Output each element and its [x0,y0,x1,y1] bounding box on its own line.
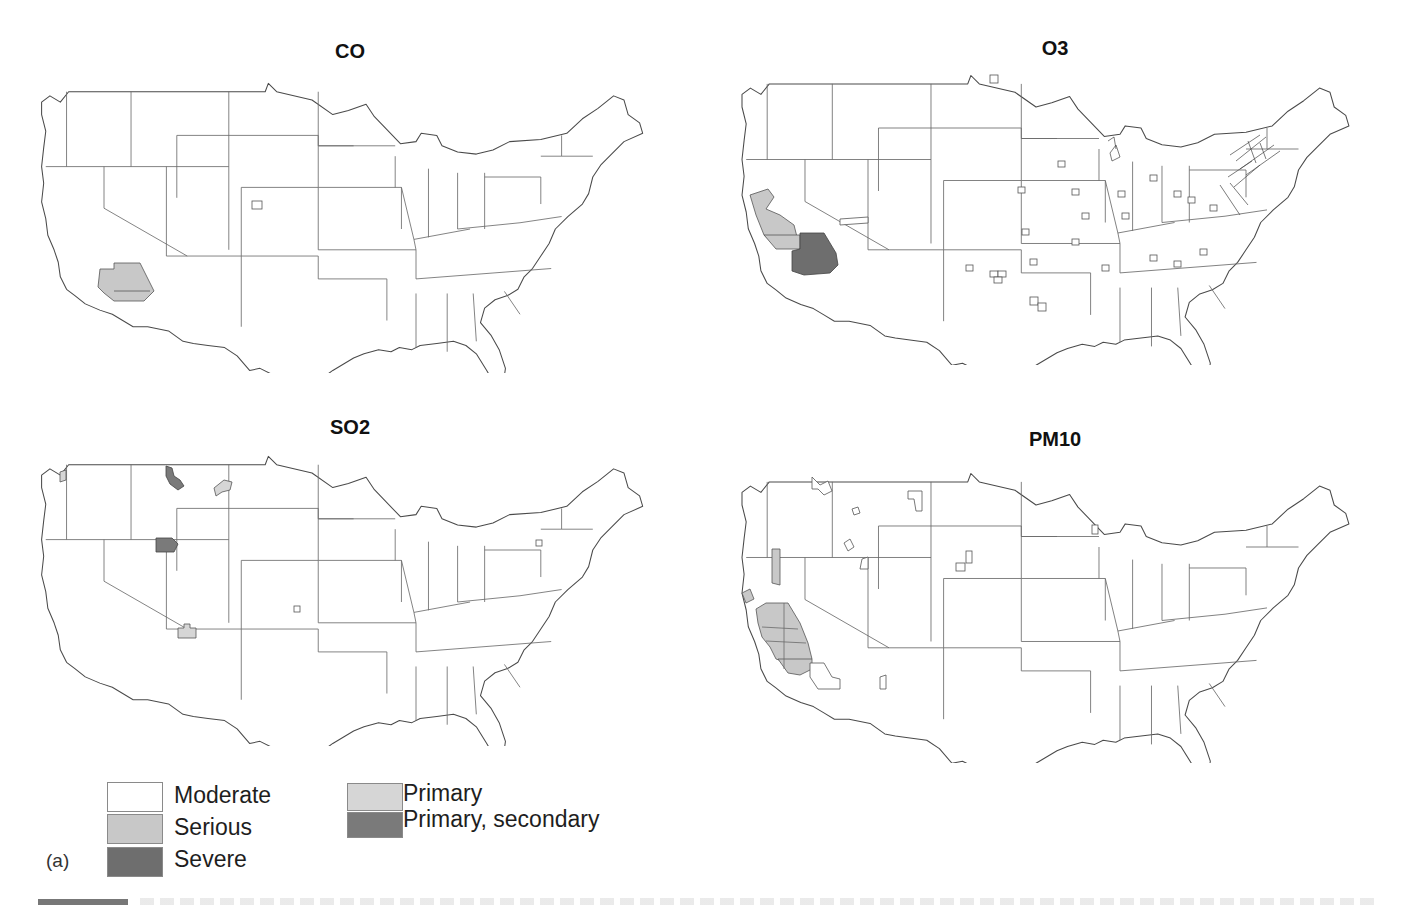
us-map-o3 [700,65,1410,365]
legend-swatch-moderate [107,782,163,812]
caption-text-cutoff [140,898,1380,905]
serious-area-owens-valley [772,549,780,585]
us-map-so2 [0,446,700,746]
legend-label-moderate: Moderate [174,782,271,809]
caption-marker [38,899,128,905]
panel-title: PM10 [700,428,1410,451]
legend-label-primary: Primary [403,780,482,807]
panel-label: (a) [46,850,69,872]
legend-label-primary-secondary: Primary, secondary [403,806,599,833]
panel-o3: O3 [700,35,1410,365]
primary-area-pa [536,540,542,546]
legend-swatch-primary-secondary [347,812,403,838]
legend-swatch-serious [107,814,163,844]
legend-label-severe: Severe [174,846,247,873]
panel-title: SO2 [0,416,700,439]
legend-label-serious: Serious [174,814,252,841]
panel-co: CO [0,35,700,365]
legend-swatch-primary [347,783,403,811]
legend-swatch-severe [107,847,163,877]
moderate-area-denver [252,201,262,209]
us-map-pm10 [700,463,1410,763]
panel-title: CO [0,40,700,63]
panel-so2: SO2 [0,408,700,738]
legend: (a) Moderate Serious Severe Primary Prim… [0,770,700,885]
panel-title: O3 [700,37,1410,60]
us-map-co [0,73,700,373]
primary-area-nm [294,606,300,612]
primary-area-washington [60,470,66,482]
panel-pm10: PM10 [700,408,1410,748]
